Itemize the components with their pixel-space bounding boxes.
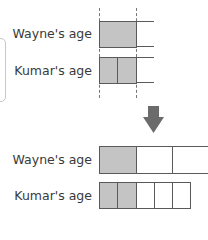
- kumar-unit-filled: [117, 182, 137, 209]
- open-bottom-edge: [136, 82, 154, 83]
- bottom-kumar-label: Kumar's age: [0, 188, 92, 203]
- wayne-unit-empty: [136, 146, 173, 174]
- wayne-unit-filled: [99, 21, 137, 48]
- kumar-unit-empty: [172, 182, 191, 209]
- kumar-unit-empty: [136, 182, 155, 209]
- bottom-wayne-label: Wayne's age: [0, 152, 92, 167]
- kumar-unit-empty: [154, 182, 173, 209]
- wayne-unit-filled: [99, 146, 137, 174]
- open-top-edge: [136, 21, 154, 22]
- down-arrow-icon: [143, 106, 165, 134]
- kumar-unit-filled: [117, 57, 137, 84]
- open-bottom-edge: [136, 46, 154, 47]
- open-top-edge: [136, 57, 154, 58]
- wayne-unit-empty: [172, 146, 208, 174]
- top-kumar-label: Kumar's age: [0, 63, 92, 78]
- kumar-unit-filled: [99, 182, 118, 209]
- top-wayne-label: Wayne's age: [0, 26, 92, 41]
- kumar-unit-filled: [99, 57, 118, 84]
